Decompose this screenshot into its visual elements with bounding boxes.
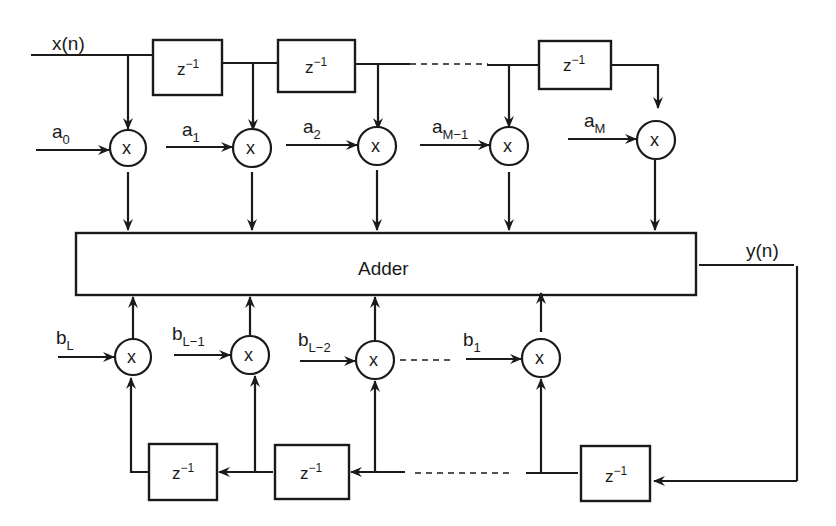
svg-text:aM−1: aM−1 <box>432 116 468 142</box>
svg-text:x: x <box>535 348 544 368</box>
adder-label: Adder <box>358 258 409 279</box>
svg-text:a0: a0 <box>52 121 70 147</box>
multiplier-b1: x b1 <box>463 293 560 377</box>
svg-text:bL: bL <box>56 327 74 353</box>
svg-text:a1: a1 <box>182 119 200 145</box>
svg-text:b1: b1 <box>463 329 481 355</box>
svg-text:x: x <box>122 138 131 158</box>
delay-box-top-2: z−1 <box>278 40 355 92</box>
svg-text:x: x <box>371 136 380 156</box>
svg-text:bL−2: bL−2 <box>298 329 331 355</box>
input-signal-line: x(n) <box>31 33 153 55</box>
multiplier-bL: x bL <box>56 297 151 375</box>
delay-box-bottom-1: z−1 <box>149 444 217 500</box>
multiplier-bL-1: x bL−1 <box>172 297 269 374</box>
svg-text:x: x <box>244 345 253 365</box>
multiplier-a1: x a1 <box>166 119 271 230</box>
svg-text:x: x <box>650 130 659 150</box>
delay-box-top-3: z−1 <box>539 41 611 89</box>
input-label: x(n) <box>52 33 85 54</box>
delay-box-bottom-3: z−1 <box>581 446 650 501</box>
multiplier-aM-1: x aM−1 <box>420 116 528 230</box>
iir-filter-diagram: x(n) z−1 z−1 z−1 x a0 x a1 x <box>0 0 836 526</box>
adder-block: Adder <box>76 233 696 295</box>
delay-box-top-1: z−1 <box>153 40 222 95</box>
multiplier-a2: x a2 <box>286 116 396 230</box>
svg-text:bL−1: bL−1 <box>172 323 205 349</box>
svg-text:x: x <box>127 347 136 367</box>
svg-text:aM: aM <box>584 110 605 136</box>
svg-text:a2: a2 <box>303 116 321 142</box>
svg-text:x: x <box>369 350 378 370</box>
multiplier-aM: x aM <box>568 110 675 230</box>
multiplier-a0: x a0 <box>36 121 146 230</box>
delay-box-bottom-2: z−1 <box>275 445 349 499</box>
svg-text:x: x <box>246 138 255 158</box>
svg-text:x: x <box>503 136 512 156</box>
output-label: y(n) <box>746 240 779 261</box>
multiplier-bL-2: x bL−2 <box>298 297 455 379</box>
